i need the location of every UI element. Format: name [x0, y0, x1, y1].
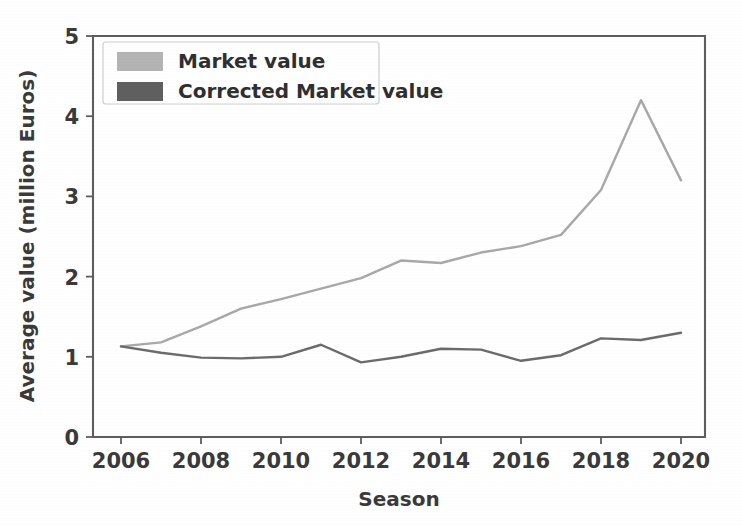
x-tick-label: 2018	[572, 449, 630, 473]
legend-label-2: Corrected Market value	[178, 79, 443, 103]
y-tick-label: 0	[64, 426, 79, 450]
x-tick-label: 2020	[652, 449, 710, 473]
x-axis-ticks: 20062008201020122014201620182020	[92, 437, 710, 473]
y-tick-label: 5	[64, 25, 79, 49]
y-axis-title: Average value (million Euros)	[15, 70, 39, 403]
series-line-1	[121, 100, 681, 346]
x-tick-label: 2010	[252, 449, 310, 473]
y-tick-label: 2	[64, 266, 79, 290]
x-tick-label: 2006	[92, 449, 150, 473]
y-tick-label: 1	[64, 346, 79, 370]
x-axis-title: Season	[358, 487, 439, 511]
y-tick-label: 4	[64, 105, 79, 129]
data-series-group	[121, 100, 681, 362]
y-axis-ticks: 012345	[64, 25, 93, 450]
chart-figure: 012345 20062008201020122014201620182020 …	[0, 0, 742, 525]
x-tick-label: 2014	[412, 449, 470, 473]
legend-label-1: Market value	[178, 49, 325, 73]
line-chart-svg: 012345 20062008201020122014201620182020 …	[0, 0, 742, 525]
legend-swatch-2	[117, 82, 163, 101]
legend-swatch-1	[117, 52, 163, 71]
chart-legend: Market valueCorrected Market value	[103, 42, 443, 104]
series-line-2	[121, 333, 681, 363]
y-tick-label: 3	[64, 185, 79, 209]
x-tick-label: 2016	[492, 449, 550, 473]
x-tick-label: 2008	[172, 449, 230, 473]
x-tick-label: 2012	[332, 449, 390, 473]
